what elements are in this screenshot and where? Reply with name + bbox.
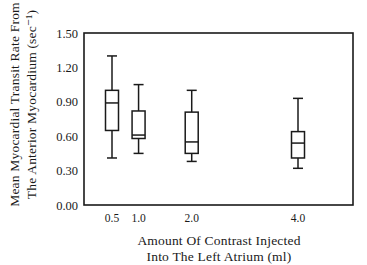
iqr-box [106, 90, 119, 130]
iqr-box [185, 112, 198, 153]
iqr-box [292, 132, 305, 158]
x-axis-label-line-2: Into The Left Atrium (ml) [84, 249, 354, 265]
box-4.0 [292, 98, 305, 168]
plot-frame [84, 33, 353, 205]
x-axis-label-line-1: Amount Of Contrast Injected [84, 233, 354, 249]
y-axis-label-line-2: The Anterior Myocardium (sec⁻¹) [23, 0, 40, 236]
x-tick-label: 4.0 [291, 212, 306, 224]
box-2.0 [185, 90, 198, 161]
x-tick-label: 0.5 [105, 212, 120, 224]
box-0.5 [106, 56, 119, 158]
x-axis-label: Amount Of Contrast Injected Into The Lef… [84, 233, 354, 265]
x-tick-label: 2.0 [185, 212, 200, 224]
y-axis-label: Mean Myocardial Transit Rate From The An… [6, 0, 66, 236]
box-1.0 [132, 85, 145, 154]
y-axis-label-line-1: Mean Myocardial Transit Rate From [6, 0, 23, 236]
box-series [106, 56, 305, 168]
x-axis-ticks: 0.51.02.04.0 [105, 212, 306, 224]
x-tick-label: 1.0 [131, 212, 146, 224]
